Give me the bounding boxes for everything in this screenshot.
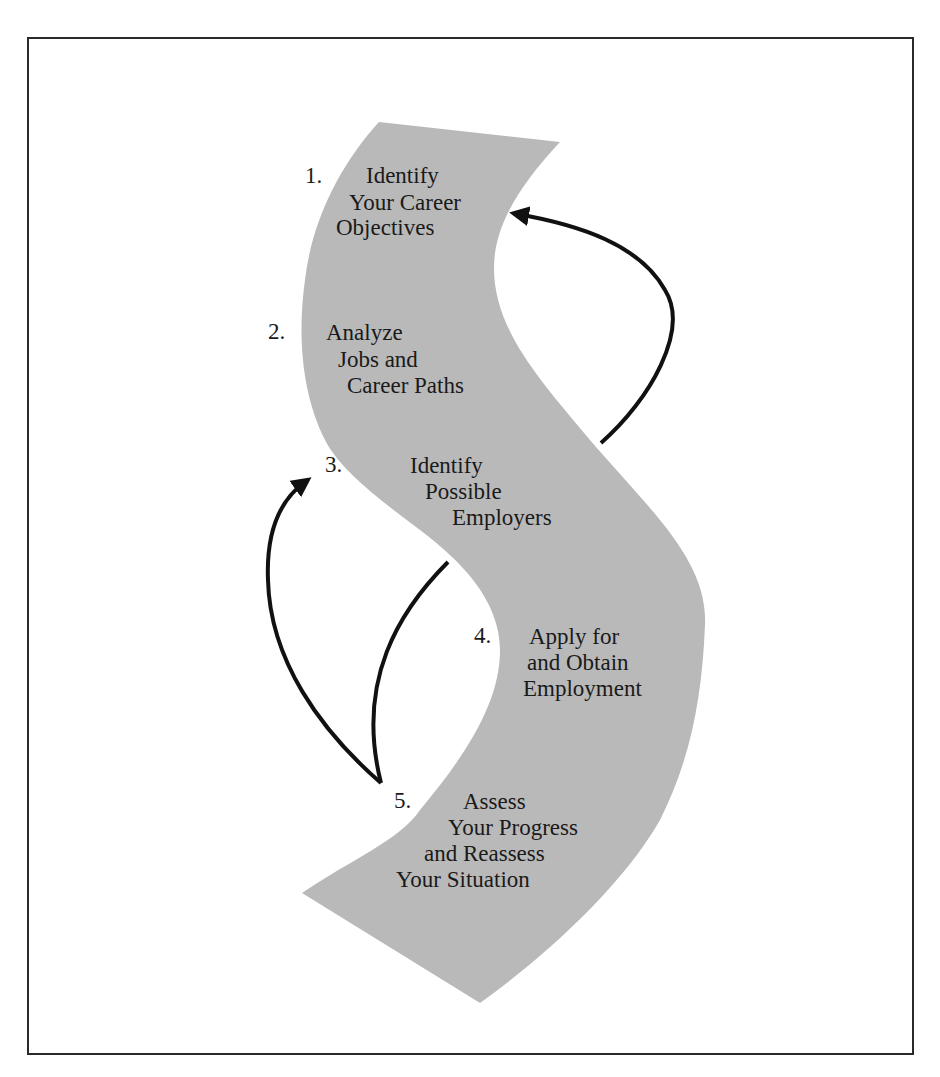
step-1-line-2: Your Career [349,189,461,216]
step-5-line-1: Assess [463,788,526,815]
step-2-number: 2. [268,319,285,345]
step-2-line-1: Analyze [326,319,403,346]
step-3-line-2: Possible [425,478,502,505]
step-5-number: 5. [394,788,411,814]
step-4-line-3: Employment [523,675,642,702]
step-3-line-1: Identify [410,452,483,479]
career-planning-diagram [0,0,940,1077]
step-4-line-1: Apply for [529,623,619,650]
step-1-number: 1. [305,163,322,189]
step-5-line-4: Your Situation [396,866,530,893]
step-4-number: 4. [474,623,491,649]
connector-line-step-3-to-5 [373,562,448,783]
step-1-line-1: Identify [366,162,439,189]
step-2-line-3: Career Paths [347,372,464,399]
step-5-line-3: and Reassess [424,840,545,867]
step-4-line-2: and Obtain [527,649,629,676]
step-3-number: 3. [325,452,342,478]
step-1-line-3: Objectives [336,214,434,241]
step-5-line-2: Your Progress [448,814,578,841]
step-3-line-3: Employers [452,504,552,531]
step-2-line-2: Jobs and [338,346,418,373]
feedback-arrow-to-step-3 [268,482,381,783]
